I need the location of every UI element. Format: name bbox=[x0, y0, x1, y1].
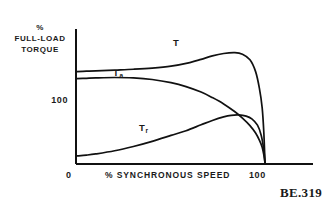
y-axis-title-line-1: % bbox=[8, 22, 72, 33]
figure-torque-speed-characteristic: % FULL-LOAD TORQUE 100 0 % SYNCHRONOUS S… bbox=[0, 0, 332, 207]
axes bbox=[76, 29, 313, 164]
y-axis-title-line-3: TORQUE bbox=[8, 44, 72, 55]
curve-total-torque bbox=[77, 53, 265, 163]
curve-label-accelerating-torque: Ta bbox=[113, 67, 123, 78]
x-axis-tick-label-100: 100 bbox=[249, 170, 266, 180]
curves bbox=[77, 53, 265, 163]
curve-label-total-torque: T bbox=[173, 37, 179, 48]
y-axis-title-line-2: FULL-LOAD bbox=[8, 33, 72, 44]
curve-label-rotor-torque: Tr bbox=[139, 122, 148, 133]
curve-label-t-base: T bbox=[173, 37, 179, 48]
figure-caption: BE.319 bbox=[280, 185, 322, 201]
x-axis-tick-label-0: 0 bbox=[66, 170, 72, 180]
curve-rotor-torque bbox=[77, 115, 265, 163]
curve-accelerating-torque bbox=[77, 78, 265, 163]
y-axis-tick-label-100: 100 bbox=[28, 95, 68, 105]
curve-label-ta-subscript: a bbox=[119, 72, 123, 79]
curve-label-tr-subscript: r bbox=[145, 127, 148, 134]
x-axis-title: % SYNCHRONOUS SPEED bbox=[105, 170, 230, 180]
y-axis-title: % FULL-LOAD TORQUE bbox=[8, 22, 72, 55]
